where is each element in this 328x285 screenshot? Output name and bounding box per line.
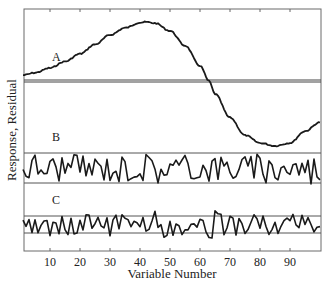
series-a-line [23,22,320,147]
x-tick-label: 10 [44,255,56,269]
x-tick-label: 20 [74,255,86,269]
x-axis-label: Variable Number [127,266,217,281]
series-b-label: B [52,130,60,144]
y-axis-label: Response, Residual [4,79,19,181]
series-c-line [23,211,320,238]
x-tick-label: 90 [284,255,296,269]
series-a-label: A [52,50,61,64]
x-tick-label: 30 [104,255,116,269]
x-tick-label: 80 [254,255,266,269]
series-b-line [23,154,320,184]
plot-frame [24,9,321,251]
series-c-label: C [52,193,60,207]
chart: 102030405060708090 A B C Variable Number… [0,0,328,285]
x-tick-label: 70 [224,255,236,269]
